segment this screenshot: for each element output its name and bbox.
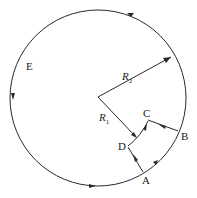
left-arrow-icon [11,93,15,100]
label-b: B [181,130,188,142]
label-c: C [143,107,150,119]
label-a: A [142,174,150,186]
segment-ad-arrow-icon [133,154,138,162]
outer-circle [10,10,186,186]
circuit-diagram: E R2 R1 C B D A [0,0,197,198]
label-d: D [118,140,126,152]
radius-r2 [98,57,171,97]
r2-arrowhead-icon [163,57,171,63]
inner-arc-d-c [128,121,148,146]
label-r2: R2 [121,70,133,85]
inner-arc-arrow-icon [143,124,147,131]
label-e: E [26,60,33,72]
bottom-arrow-icon [89,184,96,188]
label-r1: R1 [98,111,110,126]
